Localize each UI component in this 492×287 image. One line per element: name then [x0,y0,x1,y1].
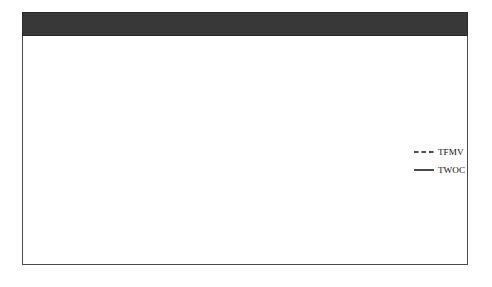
figure-title-bar [22,12,468,36]
figure-page: TFMVTWOC [0,0,492,287]
legend-label-tfmv: TFMV [438,147,464,157]
legend-label-twoc: TWOC [438,165,465,175]
plot-area: TFMVTWOC [22,36,468,265]
line-chart: TFMVTWOC [22,36,468,265]
